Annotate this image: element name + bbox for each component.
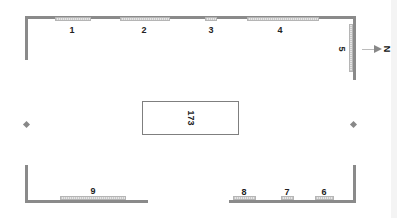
window-2-label: 2 [136, 25, 152, 35]
center-table-label: 173 [186, 110, 196, 125]
window-7-label: 7 [279, 187, 295, 197]
window-3 [205, 17, 217, 21]
window-3-label: 3 [203, 25, 219, 35]
window-1 [55, 17, 91, 21]
window-5 [349, 24, 353, 72]
doorway-marker-left [23, 121, 30, 128]
north-label: N [382, 46, 392, 53]
wall-right-lower [353, 165, 356, 203]
window-1-label: 1 [64, 25, 80, 35]
wall-right-upper [353, 16, 356, 80]
window-4-label: 4 [272, 25, 288, 35]
wall-left-lower [25, 165, 28, 203]
wall-bottom-left [25, 200, 148, 203]
window-9 [60, 196, 126, 200]
doorway-marker-right [350, 121, 357, 128]
window-8-label: 8 [236, 187, 252, 197]
edge-strip [391, 0, 397, 218]
arrow-head-icon [374, 45, 382, 53]
wall-bottom-right [229, 200, 356, 203]
wall-left-upper [25, 16, 28, 60]
window-6-label: 6 [316, 187, 332, 197]
center-table: 173 [142, 101, 239, 135]
window-9-label: 9 [85, 186, 101, 196]
window-2 [120, 17, 170, 21]
window-5-label: 5 [337, 41, 347, 57]
window-4 [247, 17, 319, 21]
